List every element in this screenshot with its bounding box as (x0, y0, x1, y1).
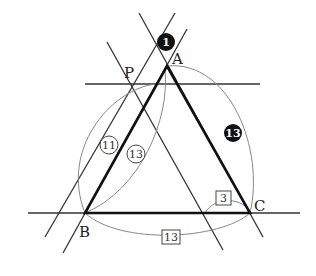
svg-text:11: 11 (102, 139, 116, 152)
point-label-a: A (171, 50, 183, 68)
svg-text:13: 13 (164, 231, 178, 244)
point-label-c: C (254, 197, 265, 215)
step-badge-3-box: 3 (216, 191, 231, 205)
svg-text:13: 13 (129, 148, 143, 161)
svg-text:3: 3 (220, 192, 227, 205)
step-badge-13-circle: 13 (127, 145, 145, 163)
svg-text:1: 1 (162, 36, 170, 49)
point-label-b: B (79, 223, 90, 241)
svg-text:13: 13 (225, 127, 240, 140)
geometry-diagram: A B C P 1 13 11 13 3 13 (0, 0, 316, 276)
step-badge-1: 1 (157, 33, 175, 51)
point-label-p: P (124, 64, 134, 82)
step-badge-13-filled: 13 (224, 124, 242, 142)
step-badge-13-box: 13 (162, 230, 180, 244)
step-badge-11-circle: 11 (100, 136, 118, 154)
